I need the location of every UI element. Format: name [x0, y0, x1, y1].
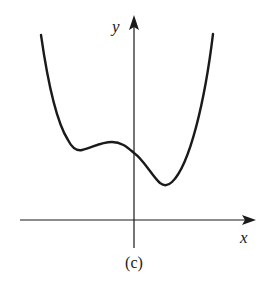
x-axis: [20, 215, 256, 225]
figure-caption: (c): [125, 254, 143, 272]
y-axis: [129, 15, 139, 248]
x-axis-label: x: [239, 228, 248, 247]
y-axis-label: y: [110, 17, 120, 36]
function-curve: [41, 34, 213, 185]
graph-figure: y x (c): [0, 0, 270, 291]
